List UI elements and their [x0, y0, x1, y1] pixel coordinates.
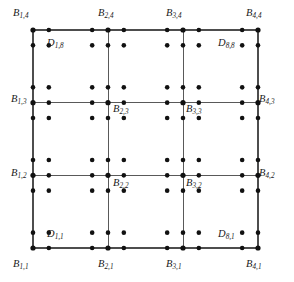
- d-node-label-8-1: D8,1: [218, 229, 235, 240]
- sample-point-dot: [256, 158, 261, 163]
- b-node-label-3-2: B3,2: [186, 178, 202, 189]
- d-node-label-symbol: D: [218, 37, 226, 48]
- sample-point-dot: [106, 85, 111, 90]
- sample-point-dot: [165, 230, 170, 235]
- b-node-label-subscript: 3,3: [193, 108, 202, 116]
- b-node-label-symbol: B: [166, 7, 173, 18]
- sample-point-dot: [90, 28, 95, 33]
- b-node-label-1-3: B1,3: [11, 94, 27, 105]
- sample-point-dot: [256, 188, 261, 193]
- sample-point-dot: [122, 116, 127, 121]
- grid-node-dot: [180, 245, 185, 250]
- b-node-label-4-2: B4,2: [259, 168, 275, 179]
- grid-node-dot: [180, 27, 185, 32]
- sample-point-dot: [31, 43, 36, 48]
- b-node-label-2-1: B2,1: [98, 259, 114, 270]
- grid-node-dot: [30, 27, 35, 32]
- grid-node-dot: [105, 245, 110, 250]
- sample-point-dot: [106, 43, 111, 48]
- b-node-label-symbol: B: [13, 258, 20, 269]
- sample-point-dot: [122, 28, 127, 33]
- sample-point-dot: [165, 100, 170, 105]
- sample-point-dot: [165, 116, 170, 121]
- b-node-label-subscript: 1,2: [18, 172, 27, 180]
- sample-point-dot: [165, 85, 170, 90]
- sample-point-dot: [256, 43, 261, 48]
- sample-point-dot: [106, 188, 111, 193]
- d-node-label-subscript: 8,1: [226, 233, 235, 241]
- sample-point-dot: [31, 116, 36, 121]
- b-node-label-symbol: B: [11, 167, 18, 178]
- mesh-grid-figure: B1,4B2,4B3,4B4,4B1,3B2,3B3,3B4,3B1,2B2,2…: [0, 0, 294, 282]
- grid-node-dot: [105, 100, 110, 105]
- grid-node-dot: [180, 100, 185, 105]
- b-node-label-subscript: 4,3: [266, 98, 275, 106]
- b-node-label-subscript: 4,4: [253, 12, 262, 20]
- sample-point-dot: [165, 43, 170, 48]
- sample-point-dot: [122, 158, 127, 163]
- sample-point-dot: [90, 173, 95, 178]
- sample-point-dot: [90, 230, 95, 235]
- sample-point-dot: [165, 158, 170, 163]
- b-node-label-subscript: 3,2: [193, 182, 202, 190]
- b-node-label-3-3: B3,3: [186, 104, 202, 115]
- sample-point-dot: [181, 85, 186, 90]
- b-node-label-symbol: B: [259, 93, 266, 104]
- sample-point-dot: [240, 230, 245, 235]
- b-node-label-symbol: B: [98, 7, 105, 18]
- b-node-label-3-4: B3,4: [166, 8, 182, 19]
- sample-point-dot: [197, 28, 202, 33]
- grid-node-dot: [30, 173, 35, 178]
- sample-point-dot: [31, 158, 36, 163]
- b-node-label-symbol: B: [246, 7, 253, 18]
- d-node-label-8-8: D8,8: [218, 38, 235, 49]
- sample-point-dot: [181, 230, 186, 235]
- sample-point-dot: [197, 173, 202, 178]
- b-node-label-symbol: B: [98, 258, 105, 269]
- sample-point-dot: [90, 246, 95, 251]
- b-node-label-subscript: 3,4: [173, 12, 182, 20]
- sample-point-dot: [122, 85, 127, 90]
- sample-point-dot: [240, 100, 245, 105]
- sample-point-dot: [31, 188, 36, 193]
- d-node-label-subscript: 1,8: [55, 42, 64, 50]
- sample-point-dot: [47, 100, 52, 105]
- b-node-label-4-1: B4,1: [246, 259, 262, 270]
- sample-point-dot: [122, 43, 127, 48]
- sample-point-dot: [165, 173, 170, 178]
- b-node-label-symbol: B: [113, 103, 120, 114]
- sample-point-dot: [181, 116, 186, 121]
- sample-point-dot: [90, 116, 95, 121]
- b-node-label-2-3: B2,3: [113, 104, 129, 115]
- b-node-label-subscript: 4,1: [253, 263, 262, 271]
- sample-point-dot: [122, 246, 127, 251]
- b-node-label-symbol: B: [113, 177, 120, 188]
- sample-point-dot: [47, 158, 52, 163]
- b-node-label-symbol: B: [259, 167, 266, 178]
- b-node-label-4-4: B4,4: [246, 8, 262, 19]
- sample-point-dot: [181, 43, 186, 48]
- sample-point-dot: [90, 100, 95, 105]
- sample-point-dot: [256, 230, 261, 235]
- d-node-label-subscript: 1,1: [55, 233, 64, 241]
- grid-node-dot: [105, 27, 110, 32]
- sample-point-dot: [122, 173, 127, 178]
- sample-point-dot: [240, 85, 245, 90]
- sample-point-dot: [106, 116, 111, 121]
- b-node-label-subscript: 1,1: [20, 263, 29, 271]
- sample-point-dot: [90, 188, 95, 193]
- b-node-label-subscript: 1,3: [18, 98, 27, 106]
- sample-point-dot: [240, 116, 245, 121]
- sample-point-dot: [240, 188, 245, 193]
- sample-point-dot: [90, 43, 95, 48]
- diagram-canvas: [0, 0, 294, 282]
- sample-point-dot: [47, 28, 52, 33]
- sample-point-dot: [240, 43, 245, 48]
- b-node-label-subscript: 1,4: [20, 12, 29, 20]
- d-node-label-1-1: D1,1: [47, 229, 64, 240]
- b-node-label-1-4: B1,4: [13, 8, 29, 19]
- sample-point-dot: [197, 246, 202, 251]
- sample-point-dot: [47, 246, 52, 251]
- grid-node-dot: [180, 173, 185, 178]
- sample-point-dot: [197, 116, 202, 121]
